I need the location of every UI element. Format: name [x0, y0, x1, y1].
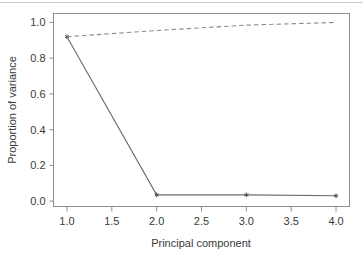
plot-panel-border — [54, 14, 350, 207]
scree-plot-figure: 0.00.20.40.60.81.0 1.01.52.02.53.03.54.0… — [0, 0, 363, 254]
y-tick-label: 0.8 — [30, 52, 45, 64]
series-line-proportion — [67, 37, 336, 196]
y-axis-title: Proportion of variance — [6, 56, 18, 164]
series-line-cumulative — [67, 22, 336, 36]
x-tick-label: 3.0 — [239, 215, 254, 227]
y-axis-ticks: 0.00.20.40.60.81.0 — [30, 16, 53, 207]
y-tick-label: 0.2 — [30, 159, 45, 171]
x-tick-label: 1.5 — [104, 215, 119, 227]
x-tick-label: 2.5 — [194, 215, 209, 227]
x-tick-label: 4.0 — [328, 215, 343, 227]
x-tick-label: 1.0 — [59, 215, 74, 227]
x-tick-label: 3.5 — [284, 215, 299, 227]
y-tick-label: 0.0 — [30, 195, 45, 207]
top-divider-rule — [0, 2, 363, 3]
chart-canvas: 0.00.20.40.60.81.0 1.01.52.02.53.03.54.0… — [0, 0, 363, 254]
y-tick-label: 0.6 — [30, 88, 45, 100]
x-tick-label: 2.0 — [149, 215, 164, 227]
data-series-layer — [65, 22, 338, 198]
y-tick-label: 0.4 — [30, 124, 45, 136]
y-tick-label: 1.0 — [30, 16, 45, 28]
x-axis-title: Principal component — [151, 237, 251, 249]
x-axis-ticks: 1.01.52.02.53.03.54.0 — [59, 207, 343, 227]
